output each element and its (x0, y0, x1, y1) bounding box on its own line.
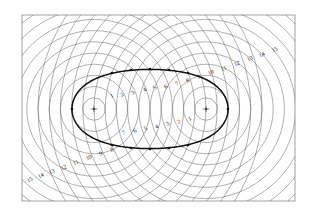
oval-node-8 (149, 148, 152, 151)
geometry-diagram: 1234567891011121314151234567891011121314… (0, 0, 317, 216)
oval-node-1 (111, 72, 114, 75)
figure-container: 1234567891011121314151234567891011121314… (0, 0, 317, 216)
oval-node-3 (149, 68, 152, 71)
oval-node-2 (130, 69, 133, 72)
oval-node-11 (71, 108, 74, 111)
oval-node-12 (227, 108, 230, 111)
oval-node-5 (187, 72, 190, 75)
oval-node-4 (168, 69, 171, 72)
oval-node-7 (130, 147, 133, 150)
oval-node-9 (168, 147, 171, 150)
oval-node-10 (187, 144, 190, 147)
